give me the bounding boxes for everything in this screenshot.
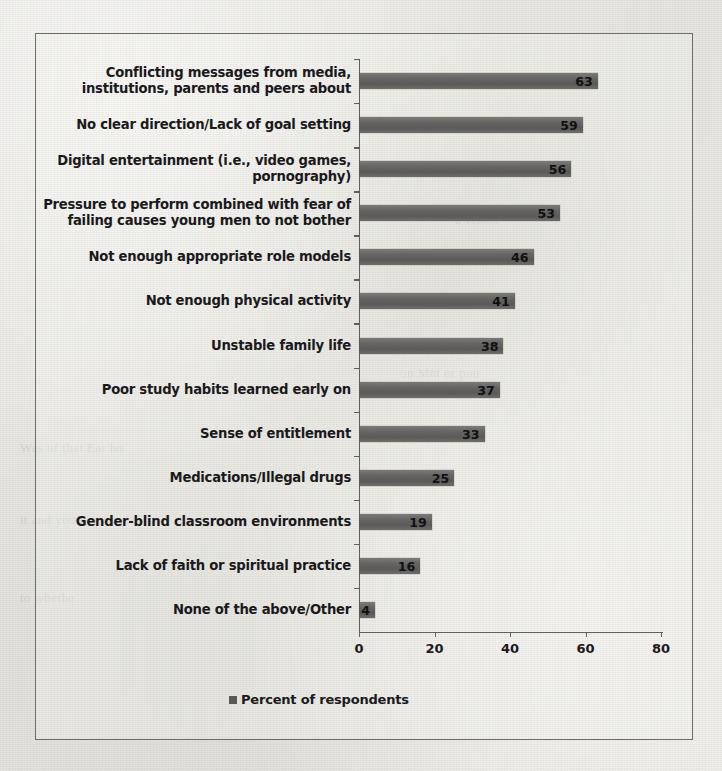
legend-label: Percent of respondents	[241, 692, 409, 707]
category-label-line: Lack of faith or spiritual practice	[36, 558, 351, 574]
bar-value-label: 46	[360, 250, 529, 265]
y-axis-tick	[354, 456, 359, 457]
category-label: Poor study habits learned early on	[36, 382, 359, 398]
category-label-line: None of the above/Other	[36, 602, 351, 618]
bar-value-label: 53	[360, 206, 555, 221]
bar-value-label: 4	[360, 603, 370, 618]
category-label: Digital entertainment (i.e., video games…	[36, 153, 359, 185]
x-axis-tick-label: 40	[490, 641, 530, 656]
x-axis-tick-label: 0	[339, 641, 379, 656]
y-axis-tick	[354, 279, 359, 280]
bar-value-label: 25	[360, 471, 449, 486]
x-axis-tick	[661, 632, 662, 637]
category-label: Not enough appropriate role models	[36, 249, 359, 265]
bar-value-label: 56	[360, 162, 566, 177]
y-axis-tick	[354, 323, 359, 324]
category-label: No clear direction/Lack of goal setting	[36, 117, 359, 133]
category-label-line: Pressure to perform combined with fear o…	[36, 197, 351, 213]
y-axis-tick	[354, 500, 359, 501]
category-label-line: Not enough physical activity	[36, 293, 351, 309]
category-label: None of the above/Other	[36, 602, 359, 618]
category-label: Gender-blind classroom environments	[36, 514, 359, 530]
x-axis-tick	[586, 632, 587, 637]
bar-value-label: 37	[360, 383, 495, 398]
category-label: Unstable family life	[36, 338, 359, 354]
bar-value-label: 19	[360, 515, 427, 530]
x-axis-tick	[510, 632, 511, 637]
x-axis-tick	[435, 632, 436, 637]
bar-value-label: 33	[360, 427, 480, 442]
y-axis-tick	[354, 544, 359, 545]
bar-value-label: 59	[360, 118, 578, 133]
category-label: Pressure to perform combined with fear o…	[36, 197, 359, 229]
bar-value-label: 41	[360, 294, 510, 309]
category-label-line: Gender-blind classroom environments	[36, 514, 351, 530]
chart-frame: 6359565346413837332519164 020406080 Conf…	[35, 33, 693, 740]
category-label: Medications/Illegal drugs	[36, 470, 359, 486]
category-label: Not enough physical activity	[36, 293, 359, 309]
category-label-line: Unstable family life	[36, 338, 351, 354]
y-axis-tick	[354, 368, 359, 369]
y-axis-tick	[354, 412, 359, 413]
x-axis-tick-label: 20	[415, 641, 455, 656]
y-axis-tick	[354, 103, 359, 104]
bar-value-label: 16	[360, 559, 415, 574]
category-label-line: Not enough appropriate role models	[36, 249, 351, 265]
y-axis-tick	[354, 191, 359, 192]
y-axis-tick	[354, 235, 359, 236]
y-axis-tick	[354, 59, 359, 60]
x-axis-tick-label: 80	[641, 641, 681, 656]
category-label-line: Digital entertainment (i.e., video games…	[36, 153, 351, 169]
category-label-line: Conflicting messages from media,	[36, 65, 351, 81]
y-axis-tick	[354, 147, 359, 148]
category-label-line: pornography)	[36, 169, 351, 185]
category-label-line: failing causes young men to not bother	[36, 213, 351, 229]
category-label: Sense of entitlement	[36, 426, 359, 442]
chart-legend: Percent of respondents	[229, 692, 409, 707]
category-label-line: No clear direction/Lack of goal setting	[36, 117, 351, 133]
category-label: Conflicting messages from media,institut…	[36, 65, 359, 97]
y-axis-tick	[354, 588, 359, 589]
category-label-line: Poor study habits learned early on	[36, 382, 351, 398]
x-axis-tick-label: 60	[566, 641, 606, 656]
bar-value-label: 63	[360, 74, 593, 89]
legend-swatch-icon	[229, 696, 237, 704]
category-label-line: Medications/Illegal drugs	[36, 470, 351, 486]
chart-plot-area: 6359565346413837332519164 020406080 Conf…	[36, 34, 694, 741]
bar-value-label: 38	[360, 339, 498, 354]
category-label: Lack of faith or spiritual practice	[36, 558, 359, 574]
x-axis-tick	[359, 632, 360, 637]
category-label-line: Sense of entitlement	[36, 426, 351, 442]
category-label-line: institutions, parents and peers about	[36, 81, 351, 97]
